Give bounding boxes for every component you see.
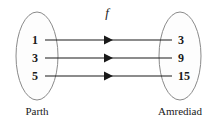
domain-element-1: 3: [32, 51, 38, 65]
codomain-element-2: 15: [178, 69, 190, 83]
mapping-arrowhead-1: [104, 36, 113, 45]
mapping-arrowhead-2: [104, 54, 113, 63]
function-label: f: [105, 5, 111, 20]
codomain-element-0: 3: [178, 33, 184, 47]
mapping-arrowhead-3: [104, 72, 113, 81]
codomain-set-label: Amrediad: [158, 105, 202, 117]
domain-element-0: 1: [32, 33, 38, 47]
codomain-element-1: 9: [178, 51, 184, 65]
mapping-diagram-canvas: 1 3 5 3 9 15 f Parth Amrediad: [0, 0, 219, 122]
domain-set-label: Parth: [25, 105, 49, 117]
domain-element-2: 5: [32, 69, 38, 83]
mapping-diagram: 1 3 5 3 9 15 f Parth Amrediad: [0, 0, 219, 122]
